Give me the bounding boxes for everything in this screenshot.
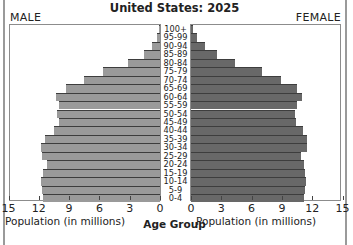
x-tick-label: 15 [333,202,353,215]
x-tick-label: 15 [0,202,19,215]
male-bar [45,135,160,143]
male-bar [56,93,160,101]
male-bar [59,101,160,109]
male-bar [66,84,160,92]
x-tick-mark [130,196,131,200]
male-bar [42,186,160,194]
x-tick-mark [221,196,222,200]
female-bar [191,50,217,58]
female-bar [191,177,306,185]
male-bar [54,126,160,134]
x-tick-mark [99,196,100,200]
x-tick-mark [343,196,344,200]
female-bar [191,160,304,168]
female-bar [191,143,307,151]
x-tick-label: 0 [150,202,170,215]
male-label: MALE [10,11,41,24]
x-tick-label: 9 [59,202,79,215]
female-bar [191,93,302,101]
x-tick-label: 12 [29,202,49,215]
x-tick-mark [282,196,283,200]
female-bar [191,84,297,92]
female-bar [191,59,235,67]
x-tick-label: 6 [89,202,109,215]
x-tick-label: 12 [302,202,322,215]
female-bar [191,152,301,160]
female-bar [191,110,295,118]
male-bar [103,67,160,75]
male-bar [41,143,160,151]
x-tick-mark [69,196,70,200]
male-bar [47,160,160,168]
male-bar [42,152,160,160]
age-group-label: Age Group [0,218,349,230]
male-bar [43,169,160,177]
x-tick-label: 3 [211,202,231,215]
male-bar [57,110,160,118]
female-bar [191,135,307,143]
female-bar [191,42,205,50]
male-bar [84,76,160,84]
x-tick-mark [9,196,10,200]
male-bar [59,118,160,126]
female-bar [191,126,303,134]
x-tick-label: 9 [272,202,292,215]
x-tick-mark [39,196,40,200]
female-bar [191,118,296,126]
male-bar [144,50,160,58]
female-bar [191,186,305,194]
female-label: FEMALE [296,11,341,24]
female-bar [191,67,262,75]
x-tick-label: 3 [120,202,140,215]
x-tick-label: 6 [242,202,262,215]
female-bar [191,169,305,177]
x-tick-mark [191,196,192,200]
female-bar [191,101,297,109]
male-bar [128,59,160,67]
x-tick-mark [160,196,161,200]
x-tick-label: 0 [181,202,201,215]
female-bar [191,33,197,41]
female-bar [191,76,281,84]
x-tick-mark [312,196,313,200]
male-bar [41,177,160,185]
x-tick-mark [252,196,253,200]
